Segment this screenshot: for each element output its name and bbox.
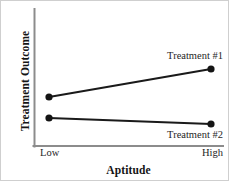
x-tick-label-high: High <box>141 147 223 158</box>
x-axis-title: Aptitude <box>34 164 223 176</box>
series-treatment-2 <box>45 114 214 127</box>
series-1-line <box>49 69 211 97</box>
series-2-point-low <box>45 114 52 121</box>
series-label-treatment-1: Treatment #1 <box>137 50 223 61</box>
x-tick-label-low: Low <box>40 147 59 158</box>
series-2-point-high <box>207 120 214 127</box>
y-axis-title: Treatment Outcome <box>19 16 31 146</box>
series-label-treatment-2: Treatment #2 <box>137 129 223 140</box>
series-1-point-high <box>207 65 214 72</box>
chart-figure: Treatment Outcome Aptitude Low High Trea… <box>0 0 229 181</box>
series-2-line <box>49 118 211 124</box>
series-1-point-low <box>45 93 52 100</box>
series-treatment-1 <box>45 65 214 100</box>
